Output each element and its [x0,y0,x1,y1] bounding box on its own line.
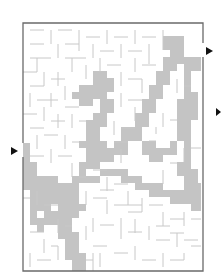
entrance-arrow-icon [11,147,18,155]
solution-path [23,36,201,271]
marker-arrow-icon [216,108,221,116]
exit-arrow-icon [206,47,213,55]
maze-board [0,0,221,279]
